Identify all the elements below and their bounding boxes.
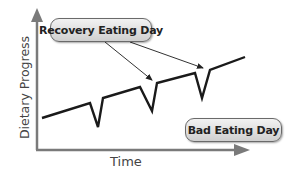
y-axis-label: Dietary Progress	[17, 28, 32, 148]
recovery-arrow-2	[130, 42, 203, 68]
recovery-eating-day-callout: Recovery Eating Day	[50, 18, 152, 42]
x-axis-arrow-icon	[234, 144, 250, 156]
y-axis-arrow-icon	[31, 8, 43, 22]
x-axis	[36, 144, 250, 156]
progress-line	[42, 57, 245, 127]
bad-eating-day-callout: Bad Eating Day	[185, 118, 282, 142]
x-axis-label: Time	[110, 154, 142, 169]
